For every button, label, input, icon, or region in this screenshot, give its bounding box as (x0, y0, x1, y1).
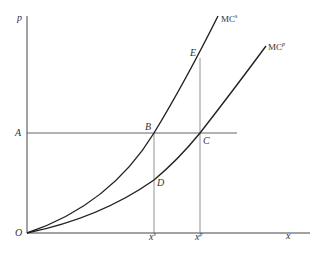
point-label-D: D (156, 177, 165, 188)
point-label-C: C (203, 135, 210, 146)
price-label-A: A (14, 127, 22, 138)
point-label-B: B (145, 121, 151, 132)
x-axis-label: x (285, 230, 291, 241)
marginal-cost-diagram: p x O A B C D E MCs MCp xs xp (0, 0, 314, 257)
mc-p-label: MCp (268, 41, 285, 52)
mc-s-label: MCs (221, 13, 238, 24)
origin-label: O (15, 227, 22, 238)
y-axis-label: p (16, 12, 22, 23)
tick-label-xs: xs (148, 231, 156, 242)
tick-label-xp: xp (194, 231, 202, 242)
point-label-E: E (189, 47, 196, 58)
mc-p-curve (27, 46, 266, 233)
